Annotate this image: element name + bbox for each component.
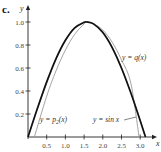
x-tick-label: 3.0	[136, 142, 145, 150]
x-tick-label: 2.0	[98, 142, 107, 150]
x-tick-label: 2.5	[117, 142, 126, 150]
y-tick-label: 0.8	[15, 42, 24, 50]
y-tick-label: 1.0	[15, 19, 24, 27]
y-tick-label: 0.4	[15, 88, 24, 96]
label-q: y = q(x)	[121, 53, 147, 62]
x-tick-label: 0.5	[42, 142, 51, 150]
chart-figure: c. xy0.51.01.52.02.53.00.20.40.60.81.0 y…	[0, 0, 161, 152]
y-tick-label: 0.2	[15, 111, 24, 119]
chart-canvas: c. xy0.51.01.52.02.53.00.20.40.60.81.0 y…	[0, 0, 161, 152]
y-axis-label: y	[19, 4, 24, 13]
x-tick-label: 1.5	[80, 142, 89, 150]
label-sin-leader	[124, 117, 136, 120]
curve-labels: y = q(x)y = p2(x)y = sin x	[39, 53, 147, 125]
label-p2: y = p2(x)	[39, 115, 67, 125]
label-sin: y = sin x	[92, 115, 120, 124]
panel-label: c.	[2, 3, 10, 15]
y-tick-label: 0.6	[15, 65, 24, 73]
x-tick-label: 1.0	[61, 142, 70, 150]
x-axis-label: x	[155, 139, 160, 148]
y-axis-arrow-icon	[26, 5, 30, 10]
